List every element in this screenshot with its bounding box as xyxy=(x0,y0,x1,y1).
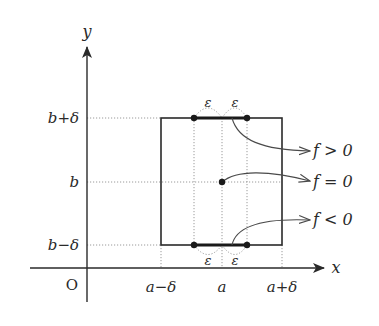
y-tick-b-minus-delta: b−δ xyxy=(48,236,79,254)
label-f-negative: f < 0 xyxy=(312,210,353,229)
diagram-canvas: y x O b+δ b b−δ a−δ a a+δ ε ε ε ε f > 0 … xyxy=(0,0,379,326)
epsilon-top-right: ε xyxy=(232,95,239,110)
y-axis-label: y xyxy=(81,22,92,41)
y-tick-b: b xyxy=(69,173,79,191)
arrow-negative xyxy=(232,220,310,245)
point-top-right xyxy=(244,115,250,121)
x-tick-a-plus-delta: a+δ xyxy=(267,278,298,296)
x-tick-a-minus-delta: a−δ xyxy=(146,278,177,296)
arrow-zero xyxy=(222,173,310,182)
x-axis-label: x xyxy=(331,258,340,277)
point-top-left xyxy=(191,115,197,121)
label-f-positive: f > 0 xyxy=(312,141,353,160)
origin-label: O xyxy=(66,276,78,294)
x-tick-a: a xyxy=(218,278,227,296)
point-center xyxy=(219,179,225,185)
epsilon-top-left: ε xyxy=(205,95,212,110)
points xyxy=(191,115,250,248)
point-bottom-left xyxy=(191,242,197,248)
arrow-positive xyxy=(232,118,310,151)
label-f-zero: f = 0 xyxy=(312,172,353,191)
epsilon-bottom-left: ε xyxy=(205,253,212,268)
point-bottom-right xyxy=(244,242,250,248)
y-tick-b-plus-delta: b+δ xyxy=(48,109,79,127)
epsilon-bottom-right: ε xyxy=(232,253,239,268)
